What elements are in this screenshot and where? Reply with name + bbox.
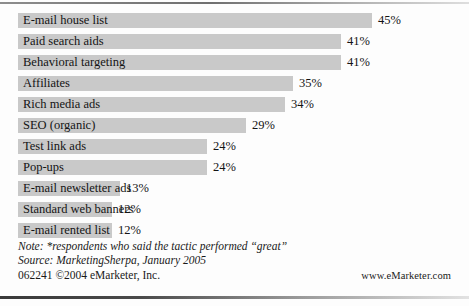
bar-category-label: Rich media ads: [23, 96, 100, 111]
bar-row: SEO (organic)29%: [18, 118, 450, 139]
bar-value-label: 24%: [213, 138, 236, 153]
bar-value-label: 29%: [252, 117, 275, 132]
bar-chart: E-mail house list45%Paid search aids41%B…: [18, 13, 450, 244]
bar-category-label: E-mail house list: [23, 12, 108, 27]
bar-value-label: 12%: [118, 201, 141, 216]
bar-value-label: 41%: [347, 54, 370, 69]
source-text: Source: MarketingSherpa, January 2005: [18, 254, 438, 268]
bar-row: Affiliates35%: [18, 76, 450, 97]
bar-category-label: Test link ads: [23, 138, 86, 153]
bar-category-label: Paid search aids: [23, 33, 104, 48]
note-text: Note: *respondents who said the tactic p…: [18, 240, 438, 254]
bar-row: Test link ads24%: [18, 139, 450, 160]
emarketer-url: www.eMarketer.com: [361, 270, 451, 281]
bar-value-label: 41%: [347, 33, 370, 48]
bar-row: E-mail house list45%: [18, 13, 450, 34]
bar-value-label: 13%: [126, 180, 149, 195]
bar-row: E-mail newsletter ads13%: [18, 181, 450, 202]
bar-category-label: Pop-ups: [23, 159, 64, 174]
bar-value-label: 45%: [378, 12, 401, 27]
bar-category-label: E-mail rented list: [23, 222, 110, 237]
bar-row: Paid search aids41%: [18, 34, 450, 55]
bar-row: Standard web banners12%: [18, 202, 450, 223]
chart-page: E-mail house list45%Paid search aids41%B…: [0, 0, 469, 306]
bar-row: Rich media ads34%: [18, 97, 450, 118]
bar-value-label: 35%: [299, 75, 322, 90]
bar-value-label: 12%: [118, 222, 141, 237]
bar-row: Behavioral targeting41%: [18, 55, 450, 76]
top-divider-rule: [0, 2, 469, 4]
bottom-divider-rule: [0, 296, 469, 299]
bar-row: Pop-ups24%: [18, 160, 450, 181]
bar-category-label: Standard web banners: [23, 201, 133, 216]
bar-category-label: Behavioral targeting: [23, 54, 125, 69]
bar-category-label: Affiliates: [23, 75, 70, 90]
bar-value-label: 34%: [291, 96, 314, 111]
bar-value-label: 24%: [213, 159, 236, 174]
bar-category-label: E-mail newsletter ads: [23, 180, 131, 195]
bar-category-label: SEO (organic): [23, 117, 95, 132]
